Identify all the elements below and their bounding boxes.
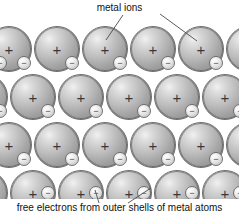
bottom-caption-background [0,199,239,212]
free-electron-charge-symbol: − [66,155,78,164]
free-electron: − [185,186,199,200]
free-electron-charge-symbol: − [162,155,174,164]
free-electron: − [89,186,103,200]
free-electron: − [65,56,79,70]
metal-ion-charge-symbol: + [155,90,199,105]
free-electron: − [65,152,79,166]
metal-ion-charge-symbol: + [227,138,239,153]
metal-ion-charge-symbol: + [131,42,175,57]
free-electron-charge-symbol: − [66,59,78,68]
free-electron: − [161,152,175,166]
metal-ion-charge-symbol: + [179,42,223,57]
metal-ion-charge-symbol: + [203,90,239,105]
free-electron-charge-symbol: − [90,107,102,116]
free-electron-charge-symbol: − [138,107,150,116]
free-electron: − [113,152,127,166]
free-electron: − [17,152,31,166]
top-caption-background [0,0,239,21]
metal-ion-charge-symbol: + [0,42,31,57]
free-electron: − [113,56,127,70]
metal-ion-charge-symbol: + [35,138,79,153]
free-electron: − [89,104,103,118]
metal-ion: + [226,26,239,72]
free-electron-charge-symbol: − [0,59,6,68]
free-electron-charge-symbol: − [210,155,222,164]
free-electron: − [185,104,199,118]
free-electron-charge-symbol: − [186,189,198,198]
free-electron-charge-symbol: − [18,59,30,68]
metal-ion-charge-symbol: + [59,90,103,105]
metal-ion-charge-symbol: + [0,90,7,105]
free-electron-charge-symbol: − [234,107,239,116]
free-electron-charge-symbol: − [42,107,54,116]
free-electron-charge-symbol: − [186,107,198,116]
free-electron: − [0,104,7,118]
lattice-layer: ++++++++++++++++++++++++−−−−−−−−−−−−−−−−… [0,0,239,212]
free-electron-charge-symbol: − [18,155,30,164]
free-electron-charge-symbol: − [210,59,222,68]
metal-ion-charge-symbol: + [179,138,223,153]
free-electron: − [41,186,55,200]
free-electron: − [137,186,151,200]
metal-ion-charge-symbol: + [83,138,127,153]
metal-ion-charge-symbol: + [131,138,175,153]
free-electron: − [209,56,223,70]
metal-ion-charge-symbol: + [0,138,31,153]
free-electron-charge-symbol: − [162,59,174,68]
free-electron-charge-symbol: − [42,189,54,198]
free-electron-charge-symbol: − [0,107,6,116]
metal-ion-charge-symbol: + [11,90,55,105]
metallic-bonding-diagram: ++++++++++++++++++++++++−−−−−−−−−−−−−−−−… [0,0,239,212]
free-electron: − [137,104,151,118]
metal-ion-charge-symbol: + [35,42,79,57]
free-electron: − [161,56,175,70]
metal-ion-charge-symbol: + [107,90,151,105]
free-electron-charge-symbol: − [234,189,239,198]
free-electron-charge-symbol: − [138,189,150,198]
free-electron-charge-symbol: − [114,59,126,68]
free-electron: − [209,152,223,166]
free-electron-charge-symbol: − [90,189,102,198]
metal-ion: + [226,122,239,168]
free-electron-charge-symbol: − [114,155,126,164]
free-electron: − [17,56,31,70]
metal-ion-charge-symbol: + [227,42,239,57]
metal-ion-charge-symbol: + [83,42,127,57]
free-electron: − [41,104,55,118]
